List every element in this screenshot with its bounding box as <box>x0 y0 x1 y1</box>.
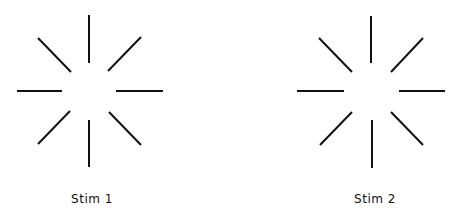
stim-2-line-lower-left <box>320 112 352 145</box>
stim-1-line-upper-left <box>38 38 71 72</box>
stim-2-line-upper-left <box>319 38 352 72</box>
stimulus-drawing <box>0 0 458 215</box>
stim-1-line-lower-right <box>109 112 141 145</box>
stim-1-line-lower-left <box>38 111 70 144</box>
stim-1-starburst <box>17 15 163 167</box>
stim-1-label: Stim 1 <box>71 192 113 206</box>
stim-1-line-upper-right <box>108 37 141 71</box>
stim-2-starburst <box>297 16 445 168</box>
stim-2-line-upper-right <box>391 38 423 72</box>
stim-2-label: Stim 2 <box>354 192 396 206</box>
stim-2-line-lower-right <box>391 112 423 145</box>
stimulus-figure: Stim 1 Stim 2 <box>0 0 458 215</box>
